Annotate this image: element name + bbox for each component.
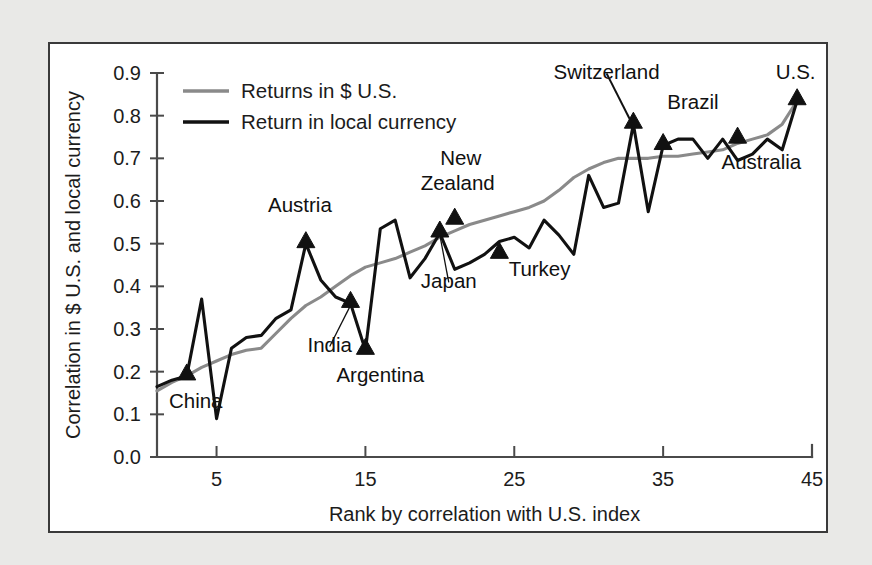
data-point-marker: [490, 242, 508, 258]
data-point-marker: [446, 208, 464, 224]
x-tick-label: 15: [354, 468, 376, 490]
y-tick-label: 0.2: [113, 361, 141, 383]
y-tick-label: 0.3: [113, 318, 141, 340]
annotation-label: Zealand: [421, 171, 495, 194]
y-tick-label: 0.6: [113, 190, 141, 212]
annotation-label: Switzerland: [554, 60, 660, 83]
annotation-label: China: [169, 389, 223, 412]
data-point-marker: [356, 338, 374, 354]
y-tick-label: 0.8: [113, 105, 141, 127]
annotation-label: Australia: [722, 150, 802, 173]
y-axis-title: Correlation in $ U.S. and local currency: [62, 91, 84, 439]
chart-legend: Returns in $ U.S.Return in local currenc…: [183, 79, 457, 133]
x-axis-ticks: 515253545: [211, 446, 823, 490]
x-tick-label: 25: [503, 468, 525, 490]
series-line-usd: [157, 101, 797, 391]
legend-label: Return in local currency: [241, 110, 457, 133]
y-tick-label: 0.9: [113, 62, 141, 84]
annotation-label: U.S.: [776, 60, 816, 83]
annotation-label: India: [307, 333, 352, 356]
y-tick-label: 0.7: [113, 147, 141, 169]
annotation-label: Argentina: [336, 363, 424, 386]
x-axis-title: Rank by correlation with U.S. index: [329, 503, 640, 525]
correlation-line-chart: 0.00.10.20.30.40.50.60.70.80.9 515253545…: [50, 44, 826, 531]
y-tick-label: 0.1: [113, 403, 141, 425]
annotation-label: Japan: [421, 269, 477, 292]
figure-root: 0.00.10.20.30.40.50.60.70.80.9 515253545…: [0, 0, 872, 565]
y-tick-label: 0.4: [113, 275, 141, 297]
y-tick-label: 0.0: [113, 446, 141, 468]
x-tick-label: 45: [801, 468, 823, 490]
data-point-marker: [788, 89, 806, 105]
x-tick-label: 5: [211, 468, 222, 490]
annotation-label: New: [440, 146, 481, 169]
annotation-label: Brazil: [667, 90, 718, 113]
chart-panel: 0.00.10.20.30.40.50.60.70.80.9 515253545…: [48, 42, 828, 533]
y-tick-label: 0.5: [113, 233, 141, 255]
data-point-marker: [729, 127, 747, 143]
legend-label: Returns in $ U.S.: [241, 79, 397, 102]
x-tick-label: 35: [652, 468, 674, 490]
data-point-marker: [297, 232, 315, 248]
annotation-label: Turkey: [509, 257, 572, 280]
annotation-label: Austria: [268, 193, 332, 216]
